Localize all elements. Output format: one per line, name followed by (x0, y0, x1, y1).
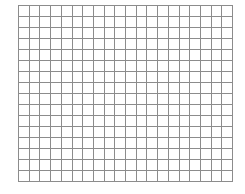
grid-paper (18, 5, 233, 182)
grid-lines (18, 5, 233, 182)
